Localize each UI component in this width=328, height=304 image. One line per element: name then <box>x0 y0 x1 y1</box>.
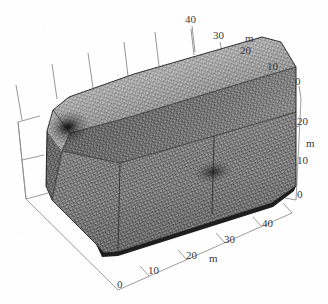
axis-topright-tick-0: 0 <box>295 76 301 87</box>
axis-vertical-unit: m <box>306 138 315 149</box>
axis-bottom-tick-20: 20 <box>186 250 197 261</box>
axis-topright-unit: m <box>245 33 254 44</box>
axis-bottom-tick-10: 10 <box>148 265 159 276</box>
axis-bottom-unit: m <box>209 253 218 264</box>
axis-vertical-tick-10: 10 <box>297 155 308 166</box>
axis-topright-tick-20: 20 <box>240 45 251 56</box>
mesh-plot-canvas <box>0 0 328 304</box>
axis-bottom-tick-0: 0 <box>117 279 123 290</box>
axis-vertical-tick-20: 20 <box>297 116 308 127</box>
mesh-solid-body <box>0 0 328 304</box>
mesh-plot-figure: 0 10 20 30 40 m 40 30 20 10 0 m 20 10 0 … <box>0 0 328 304</box>
axis-topright-tick-40: 40 <box>185 14 196 25</box>
axis-bottom-tick-40: 40 <box>262 218 273 229</box>
axis-bottom-tick-30: 30 <box>224 234 235 245</box>
axis-vertical-tick-0: 0 <box>297 189 303 200</box>
axis-left-vertical <box>18 116 48 199</box>
axis-topright-tick-10: 10 <box>267 61 278 72</box>
axis-topright-tick-30: 30 <box>213 30 224 41</box>
